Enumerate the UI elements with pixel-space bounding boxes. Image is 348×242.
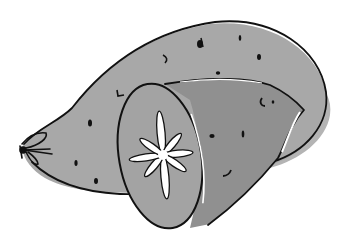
sweet-potato-illustration bbox=[0, 0, 348, 242]
illustration-canvas bbox=[0, 0, 348, 242]
